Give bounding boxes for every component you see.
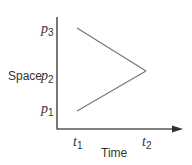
x-axis-label: Time	[101, 146, 128, 160]
diagram-svg: p3 Space p2 p1 t1 t2 Time	[0, 0, 192, 165]
x-tick-t1: t1	[73, 134, 83, 151]
line-p1-to-p2	[77, 71, 146, 111]
y-tick-p3: p3	[40, 21, 54, 38]
line-p3-to-p2	[77, 28, 146, 71]
y-axis-label: Space	[8, 69, 42, 83]
x-axis-arrowhead-icon	[172, 126, 183, 133]
y-tick-p1: p1	[40, 101, 54, 118]
y-tick-p2: p2	[40, 68, 54, 85]
x-tick-t2: t2	[142, 134, 152, 151]
space-time-diagram: p3 Space p2 p1 t1 t2 Time	[0, 0, 192, 165]
